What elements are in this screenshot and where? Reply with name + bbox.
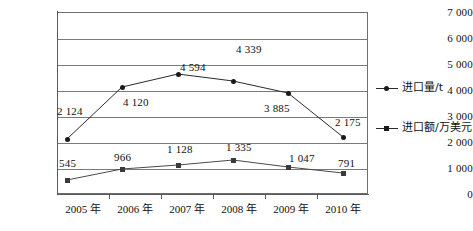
data-label-import-value-2008: 1 335 [226, 142, 252, 153]
y-tick-label-7000: 7 000 [423, 7, 473, 18]
y-tick-label-5000: 5 000 [423, 59, 473, 70]
data-label-import-value-2007: 1 128 [167, 144, 193, 155]
data-point-import-value-2005 [65, 178, 70, 183]
x-tick-mark-2 [161, 194, 162, 199]
data-point-import-value-2008 [231, 158, 236, 163]
gridline-4000 [58, 91, 367, 92]
legend-diamond-marker-icon [376, 83, 398, 93]
x-tick-label-2008: 2008 年 [209, 203, 269, 216]
data-label-import-volume-2008: 4 339 [236, 44, 262, 55]
y-tick-label-1000: 1 000 [423, 163, 473, 174]
gridline-2000 [58, 143, 367, 144]
legend-label-import-volume: 进口量/t [398, 82, 443, 94]
data-point-import-value-2007 [176, 163, 181, 168]
data-label-import-volume-2007: 4 594 [180, 62, 206, 73]
data-point-import-value-2009 [286, 165, 291, 170]
data-point-import-volume-2009 [286, 91, 291, 96]
x-tick-mark-4 [265, 194, 266, 199]
gridline-3000 [58, 117, 367, 118]
data-label-import-value-2010: 791 [338, 158, 355, 169]
x-tick-label-2005: 2005 年 [53, 203, 113, 216]
legend-item-import-volume[interactable]: 进口量/t [376, 80, 472, 96]
data-point-import-volume-2008 [231, 79, 236, 84]
data-label-import-value-2005: 545 [59, 158, 76, 169]
gridline-1000 [58, 169, 367, 170]
data-point-import-value-2006 [120, 167, 125, 172]
data-label-import-value-2006: 966 [114, 152, 131, 163]
data-point-import-volume-2006 [120, 85, 125, 90]
x-tick-mark-1 [109, 194, 110, 199]
x-tick-label-2010: 2010 年 [313, 203, 373, 216]
x-tick-mark-5 [317, 194, 318, 199]
gridline-5000 [58, 65, 367, 66]
legend-item-import-value[interactable]: 进口额/万美元 [376, 120, 472, 136]
legend-label-import-value: 进口额/万美元 [398, 122, 472, 134]
gridline-6000 [58, 39, 367, 40]
data-point-import-value-2010 [341, 171, 346, 176]
x-tick-label-2007: 2007 年 [157, 203, 217, 216]
data-label-import-value-2009: 1 047 [289, 153, 315, 164]
line-chart: 7 000 6 000 5 000 4 000 3 000 2 000 1 00… [0, 0, 473, 231]
plot-area [57, 12, 368, 194]
legend-square-marker-icon [376, 123, 398, 133]
data-label-import-volume-2006: 4 120 [123, 97, 149, 108]
legend: 进口量/t 进口额/万美元 [376, 80, 472, 160]
y-tick-label-0: 0 [423, 189, 473, 200]
x-tick-mark-3 [213, 194, 214, 199]
y-tick-label-6000: 6 000 [423, 33, 473, 44]
x-tick-label-2009: 2009 年 [261, 203, 321, 216]
data-point-import-volume-2010 [341, 135, 346, 140]
data-label-import-volume-2005: 2 124 [57, 106, 83, 117]
y-axis [57, 11, 58, 195]
data-label-import-volume-2010: 2 175 [335, 117, 361, 128]
data-label-import-volume-2009: 3 885 [264, 103, 290, 114]
x-tick-label-2006: 2006 年 [105, 203, 165, 216]
data-point-import-volume-2005 [65, 137, 70, 142]
